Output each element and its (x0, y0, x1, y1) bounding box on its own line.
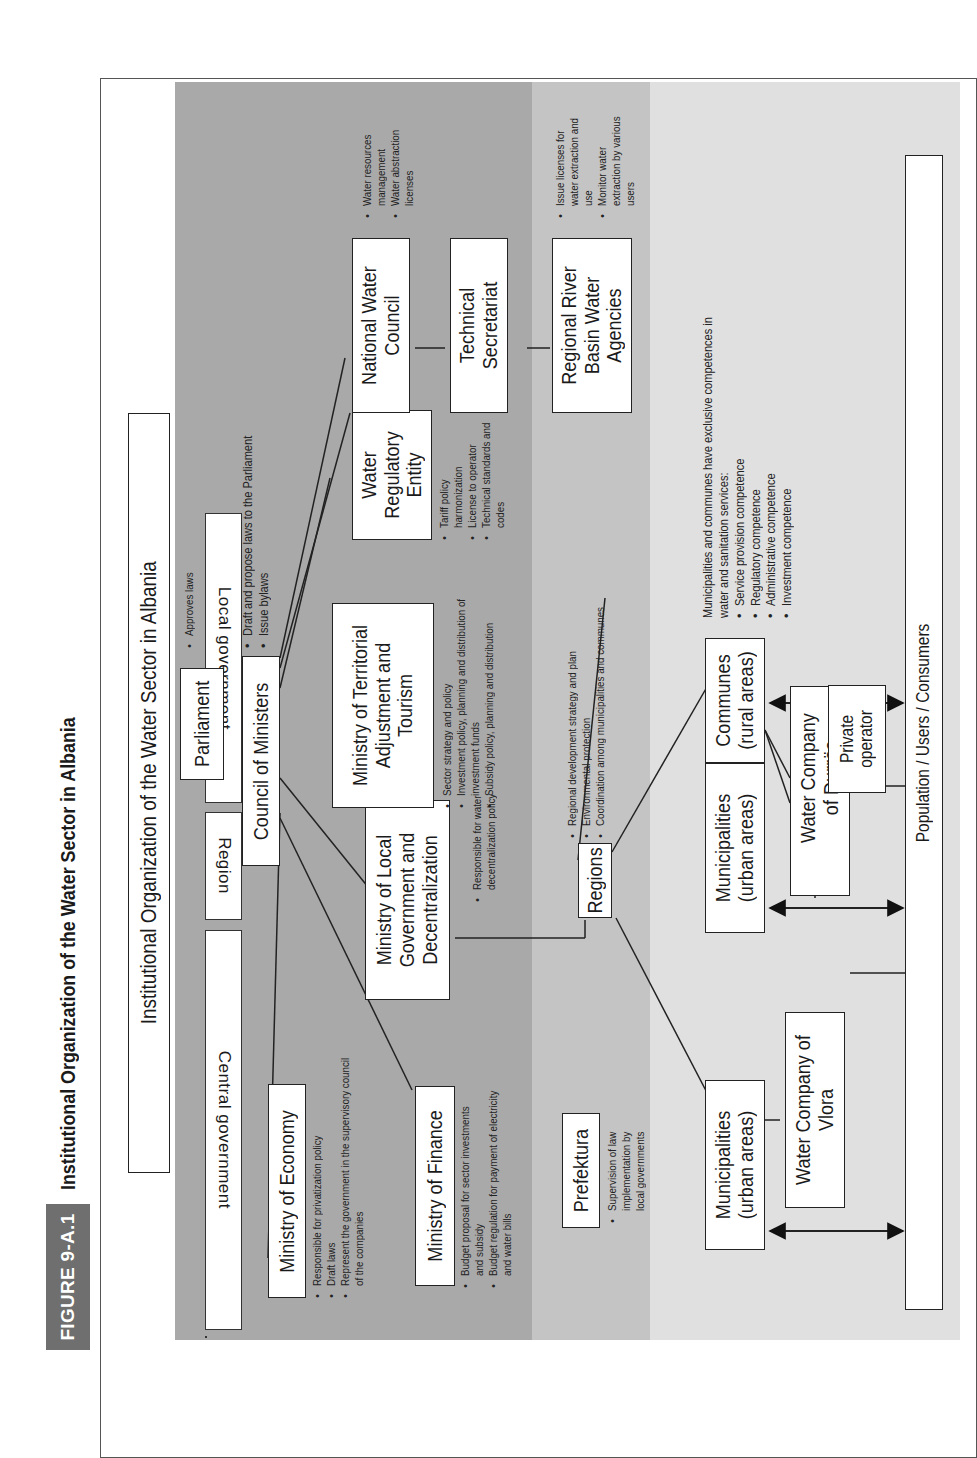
figure-canvas: FIGURE 9-A.1 Institutional Organization … (0, 0, 977, 1458)
node-municipalities-2: Municipalities (urban areas) (705, 763, 765, 933)
node-regional-river-basin-agencies: Regional River Basin Water Agencies (552, 238, 632, 413)
node-regions: Regions (578, 843, 612, 918)
notes-council-of-ministers: Draft and propose laws to the Parliament… (240, 288, 272, 648)
diagram-heading: Institutional Organization of the Water … (128, 413, 170, 1173)
node-water-regulatory-entity: Water Regulatory Entity (352, 410, 432, 540)
band-label-central-government: Central government (205, 930, 242, 1330)
node-communes: Communes (rural areas) (705, 638, 765, 763)
notes-water-regulatory-entity: Tariff policy harmonization License to o… (437, 410, 507, 540)
node-water-company-vlora: Water Company of Vlora (785, 1012, 845, 1208)
node-population-users-consumers: Population / Users / Consumers (905, 155, 943, 1310)
node-ministry-of-local-government: Ministry of Local Government and Decentr… (365, 800, 450, 1000)
node-ministry-of-territorial-adjustment: Ministry of Territorial Adjustment and T… (332, 603, 434, 808)
notes-ministry-of-finance: Budget proposal for sector investments a… (458, 1078, 514, 1288)
node-parliament: Parliament (180, 668, 224, 780)
node-private-operator: Private operator (828, 685, 886, 793)
notes-regions: Regional development strategy and plan E… (565, 558, 607, 838)
node-national-water-council: National Water Council (352, 238, 410, 413)
notes-prefektura: Supervision of law implementation by loc… (605, 1098, 647, 1223)
notes-ministry-of-territorial-adjustment: Sector strategy and policy Investment po… (440, 583, 496, 808)
node-ministry-of-economy: Ministry of Economy (268, 1084, 306, 1298)
notes-national-water-council: Water resources management Water abstrac… (360, 108, 416, 218)
notes-parliament: Approves laws (182, 488, 196, 648)
notes-ministry-of-economy: Responsible for privatization policy Dra… (310, 1058, 366, 1298)
notes-regional-river-basin-agencies: Issue licenses for water extraction and … (553, 108, 637, 218)
node-prefektura: Prefektura (562, 1113, 600, 1228)
node-municipalities-1: Municipalities (urban areas) (705, 1080, 765, 1250)
node-council-of-ministers: Council of Ministers (242, 656, 280, 866)
node-technical-secretariat: Technical Secretariat (450, 238, 508, 413)
notes-local-competences: Municipalities and communes have exclusi… (700, 278, 795, 618)
band-label-region: Region (205, 812, 242, 920)
node-ministry-of-finance: Ministry of Finance (415, 1086, 455, 1286)
